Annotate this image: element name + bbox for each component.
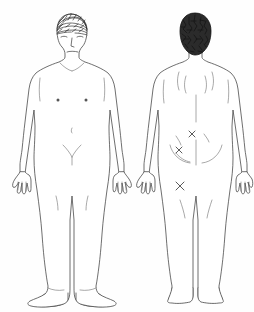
posterior-scalp bbox=[180, 13, 211, 55]
anterior-left-nipple bbox=[57, 99, 60, 102]
posterior-right-foot bbox=[198, 288, 223, 303]
anterior-left-foot bbox=[28, 293, 68, 307]
anterior-right-nipple bbox=[85, 99, 88, 102]
posterior-right-hand bbox=[236, 172, 253, 194]
posterior-left-foot bbox=[168, 288, 193, 303]
figure-posterior bbox=[137, 13, 253, 303]
anterior-right-foot bbox=[76, 293, 116, 307]
posterior-body-outline bbox=[144, 14, 247, 303]
figure-anterior bbox=[13, 14, 132, 307]
body-diagram-canvas: Human body diagram - anterior and poster… bbox=[0, 0, 254, 312]
